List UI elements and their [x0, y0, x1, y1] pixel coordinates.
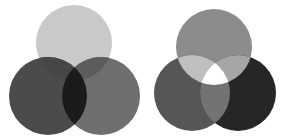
- diagram-subtractive: [9, 5, 140, 135]
- color-mixing-figure: [0, 0, 289, 139]
- diagram-additive: [154, 9, 276, 131]
- venn-diagrams: [0, 0, 289, 139]
